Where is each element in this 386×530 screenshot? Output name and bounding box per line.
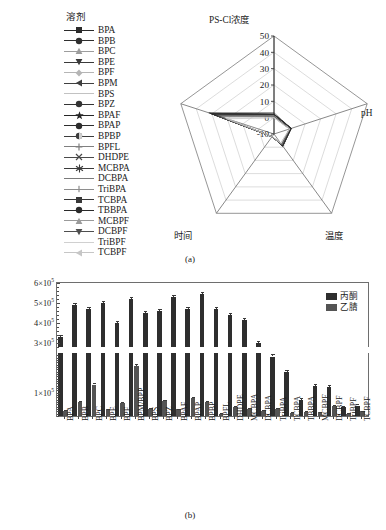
- radar-legend-marker-triangle-down-icon: [64, 57, 94, 67]
- error-bar-cap: [59, 335, 62, 336]
- error-bar-cap: [215, 307, 218, 308]
- bar-y-tick-label: 6×105: [34, 277, 54, 288]
- radar-legend-item[interactable]: TCBPF: [64, 247, 168, 258]
- radar-legend-item[interactable]: DCBPF: [64, 226, 168, 237]
- radar-legend-item[interactable]: BPS: [64, 89, 168, 100]
- bar-y-minor-tick: [57, 291, 59, 292]
- error-bar-cap: [135, 364, 138, 365]
- radar-legend-item[interactable]: DHDPE: [64, 152, 168, 163]
- bar-y-minor-tick: [57, 407, 59, 408]
- svg-text:20: 20: [260, 80, 270, 90]
- error-bar-cap: [201, 292, 204, 293]
- bar-x-tick-mark: [361, 416, 362, 419]
- radar-legend-item[interactable]: BPE: [64, 57, 168, 68]
- bar-丙酮[interactable]: [200, 294, 205, 416]
- error-bar-cap: [192, 397, 195, 398]
- bar-丙酮[interactable]: [129, 299, 134, 416]
- bar-x-tick-label: TCBPF: [363, 397, 372, 421]
- bar-丙酮[interactable]: [157, 311, 162, 416]
- bar-x-tick-mark: [177, 416, 178, 419]
- bar-丙酮[interactable]: [228, 315, 233, 416]
- error-bar-cap: [243, 318, 246, 319]
- error-bar-cap: [144, 311, 147, 312]
- bar-丙酮[interactable]: [185, 309, 190, 416]
- radar-legend-item-label: TriBPA: [94, 184, 126, 195]
- radar-legend-item-label: BPBP: [94, 131, 121, 142]
- bar-y-minor-tick: [57, 303, 59, 304]
- radar-legend-item[interactable]: BPM: [64, 78, 168, 89]
- radar-legend-marker-line-icon: [64, 237, 94, 247]
- bar-x-tick-mark: [135, 416, 136, 419]
- radar-plot: 50403020100-10 PS-Cl浓度 pH 温度 时间: [165, 22, 383, 250]
- bar-y-minor-tick: [57, 360, 59, 361]
- bar-x-tick-mark: [319, 416, 320, 419]
- radar-legend-item[interactable]: BPB: [64, 36, 168, 47]
- radar-legend-marker-star-icon: [64, 110, 94, 120]
- radar-axis-label-top: PS-Cl浓度: [209, 12, 249, 26]
- radar-legend: 溶剂 BPABPBBPCBPEBPFBPMBPSBPZBPAFBPAPBPBPB…: [64, 12, 168, 258]
- bar-丙酮[interactable]: [115, 323, 120, 416]
- bar-legend-item[interactable]: 乙腈: [326, 302, 358, 313]
- y-axis-break: [57, 347, 370, 353]
- radar-legend-item[interactable]: BPAF: [64, 110, 168, 121]
- radar-legend-item[interactable]: TriBPF: [64, 237, 168, 248]
- bar-x-tick-label: TriBPF: [349, 397, 358, 421]
- radar-legend-item[interactable]: MCBPF: [64, 216, 168, 227]
- radar-legend-item[interactable]: BPFL: [64, 142, 168, 153]
- radar-legend-item[interactable]: BPC: [64, 46, 168, 57]
- error-bar-cap: [172, 295, 175, 296]
- bar-y-minor-tick: [57, 331, 59, 332]
- bar-y-minor-tick: [57, 347, 59, 348]
- bar-x-tick-mark: [333, 416, 334, 419]
- radar-legend-item[interactable]: MCBPA: [64, 163, 168, 174]
- bar-x-tick-label: BPAP: [194, 402, 203, 421]
- bar-x-tick-mark: [248, 416, 249, 419]
- radar-legend-item-label: BPFL: [94, 142, 120, 153]
- radar-legend-marker-triangle-down-icon: [64, 227, 94, 237]
- bar-x-tick-label: BPB: [81, 406, 90, 421]
- radar-legend-item[interactable]: TriBPA: [64, 184, 168, 195]
- radar-legend-item[interactable]: BPBP: [64, 131, 168, 142]
- bar-丙酮[interactable]: [72, 305, 77, 416]
- bar-x-tick-label: BPC: [95, 406, 104, 421]
- bar-y-minor-tick: [57, 365, 59, 366]
- bar-y-minor-tick: [57, 393, 59, 394]
- radar-legend-item[interactable]: DCBPA: [64, 173, 168, 184]
- bar-x-tick-label: BPS: [151, 407, 160, 421]
- bar-legend-label: 丙酮: [340, 291, 358, 302]
- panel-a-caption: (a): [160, 254, 220, 264]
- svg-text:40: 40: [260, 48, 270, 58]
- bar-legend-item[interactable]: 丙酮: [326, 291, 358, 302]
- radar-legend-marker-circle-icon: [64, 36, 94, 46]
- bar-x-tick-label: BPFL: [222, 402, 231, 421]
- bar-y-minor-tick: [57, 376, 59, 377]
- radar-legend-item[interactable]: BPZ: [64, 99, 168, 110]
- bar-x-tick-mark: [121, 416, 122, 419]
- bar-y-minor-tick: [57, 323, 59, 324]
- radar-legend-item[interactable]: TBBPA: [64, 205, 168, 216]
- bar-x-tick-label: BPE: [109, 406, 118, 421]
- bar-丙酮[interactable]: [86, 309, 91, 416]
- bar-y-minor-tick: [57, 295, 59, 296]
- bar-x-tick-label: BPAF: [180, 402, 189, 421]
- radar-legend-item[interactable]: BPA: [64, 25, 168, 36]
- radar-legend-marker-circle-icon: [64, 205, 94, 215]
- bar-丙酮[interactable]: [171, 297, 176, 416]
- radar-legend-marker-dash-bar-icon: [64, 184, 94, 194]
- radar-legend-item-label: BPE: [94, 57, 115, 68]
- radar-legend-item[interactable]: BPAP: [64, 120, 168, 131]
- radar-legend-item-label: DHDPE: [94, 152, 129, 163]
- radar-legend-marker-triangle-up-icon: [64, 216, 94, 226]
- bar-y-minor-tick: [57, 339, 59, 340]
- bar-y-minor-tick: [57, 383, 59, 384]
- bar-丙酮[interactable]: [214, 309, 219, 416]
- bar-x-tick-mark: [92, 416, 93, 419]
- bar-y-minor-tick: [57, 400, 59, 401]
- radar-legend-item[interactable]: BPF: [64, 67, 168, 78]
- bar-x-tick-label: MCBPA: [250, 394, 259, 421]
- bar-丙酮[interactable]: [101, 303, 106, 416]
- bar-legend-swatch: [326, 304, 337, 311]
- bar-y-minor-tick: [57, 390, 59, 391]
- radar-legend-item[interactable]: TCBPA: [64, 195, 168, 206]
- radar-axis-label-bottom-right: 温度: [325, 228, 343, 242]
